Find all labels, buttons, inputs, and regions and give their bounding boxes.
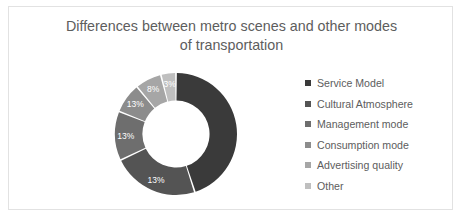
legend-item-label: Management mode: [317, 118, 408, 130]
legend-item-label: Advertising quality: [317, 159, 403, 171]
donut-slice-label: 13%: [148, 175, 165, 185]
chart-title: Differences between metro scenes and oth…: [29, 17, 434, 55]
legend-item[interactable]: Advertising quality: [305, 155, 455, 176]
donut-slice[interactable]: [121, 149, 194, 195]
chart-title-line-1: Differences between metro scenes and oth…: [29, 17, 434, 36]
legend-swatch-icon: [305, 121, 311, 127]
donut-slice-label: 8%: [147, 84, 159, 94]
chart-frame: Differences between metro scenes and oth…: [8, 6, 453, 210]
donut-slice-label: 3%: [164, 79, 176, 89]
legend-swatch-icon: [305, 183, 311, 189]
legend-item[interactable]: Other: [305, 176, 455, 197]
legend-item[interactable]: Service Model: [305, 73, 455, 94]
legend-item-label: Consumption mode: [317, 139, 409, 151]
donut-slice-label: 13%: [127, 99, 144, 109]
legend-item[interactable]: Cultural Atmosphere: [305, 94, 455, 115]
donut-slice-label: 13%: [117, 131, 134, 141]
chart-title-line-2: of transportation: [29, 36, 434, 55]
legend-item-label: Cultural Atmosphere: [317, 98, 413, 110]
legend-item[interactable]: Consumption mode: [305, 135, 455, 156]
legend-swatch-icon: [305, 80, 311, 86]
legend-swatch-icon: [305, 142, 311, 148]
legend-item[interactable]: Management mode: [305, 114, 455, 135]
legend-item-label: Service Model: [317, 77, 384, 89]
chart-legend: Service ModelCultural AtmosphereManageme…: [305, 73, 455, 196]
donut-chart: 13%13%13%8%3%: [113, 71, 239, 197]
legend-swatch-icon: [305, 162, 311, 168]
legend-item-label: Other: [317, 180, 344, 192]
legend-swatch-icon: [305, 101, 311, 107]
plot-area: 13%13%13%8%3%: [9, 59, 299, 209]
